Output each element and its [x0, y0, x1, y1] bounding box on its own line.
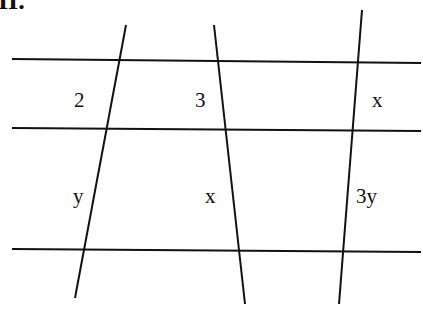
- label-left-bottom: y: [73, 186, 84, 207]
- bottom-parallel-line: [12, 249, 421, 252]
- middle-parallel-line: [12, 128, 421, 131]
- parallel-lines-diagram: II. 2 3 x y x 3y: [0, 0, 423, 314]
- label-right-bottom: 3y: [356, 186, 377, 207]
- left-transversal: [75, 25, 126, 298]
- label-right-top: x: [372, 90, 383, 111]
- diagram-lines: [0, 0, 423, 314]
- top-parallel-line: [12, 59, 421, 63]
- label-left-top: 2: [74, 90, 85, 111]
- middle-transversal: [214, 25, 245, 304]
- label-middle-top: 3: [195, 90, 206, 111]
- right-transversal: [339, 10, 362, 304]
- label-middle-bottom: x: [205, 186, 216, 207]
